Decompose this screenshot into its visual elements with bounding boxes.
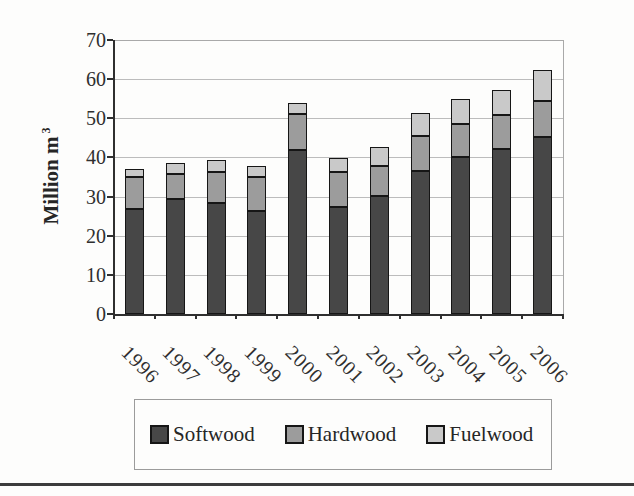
legend-label: Fuelwood — [449, 422, 533, 447]
x-axis-tick-label: 2004 — [444, 341, 491, 388]
bar-segment-fuelwood-1998 — [207, 160, 226, 172]
figure: Million m3 SoftwoodHardwoodFuelwood 0102… — [0, 0, 634, 496]
plot-border-top — [114, 40, 564, 41]
x-axis-line — [113, 314, 564, 316]
bar-segment-fuelwood-1999 — [247, 166, 266, 176]
y-axis-tick — [107, 274, 113, 276]
x-axis-tick — [399, 314, 401, 319]
y-axis-tick-label: 60 — [60, 68, 106, 90]
y-axis-tick — [107, 156, 113, 158]
y-axis-tick-label: 40 — [60, 146, 106, 168]
y-axis-tick-label: 30 — [60, 186, 106, 208]
bar-segment-softwood-1996 — [125, 209, 144, 314]
x-axis-tick — [276, 314, 278, 319]
bar-segment-fuelwood-2002 — [370, 147, 389, 166]
x-axis-tick-label: 1999 — [240, 341, 287, 388]
bar-segment-hardwood-2006 — [533, 101, 552, 137]
bar-segment-hardwood-2003 — [411, 136, 430, 171]
legend-swatch-icon — [426, 425, 445, 444]
y-axis-title-superscript: 3 — [39, 127, 53, 133]
bar-segment-hardwood-2001 — [329, 172, 348, 207]
x-axis-tick-label: 2000 — [280, 341, 327, 388]
bar-segment-hardwood-1998 — [207, 172, 226, 203]
legend-swatch-icon — [150, 425, 169, 444]
y-axis-tick — [107, 78, 113, 80]
y-axis-tick-label: 50 — [60, 107, 106, 129]
bar-segment-hardwood-2004 — [451, 124, 470, 158]
legend-swatch-icon — [285, 425, 304, 444]
bar-segment-softwood-1997 — [166, 199, 185, 314]
x-axis-tick-label: 1996 — [117, 341, 164, 388]
legend-item-hardwood: Hardwood — [285, 422, 397, 447]
legend-item-fuelwood: Fuelwood — [426, 422, 533, 447]
x-axis-tick — [440, 314, 442, 319]
bar-segment-softwood-2006 — [533, 137, 552, 314]
bar-segment-fuelwood-2001 — [329, 158, 348, 172]
bar-segment-softwood-1999 — [247, 211, 266, 314]
x-axis-tick-label: 2001 — [321, 341, 368, 388]
y-axis-tick — [107, 39, 113, 41]
bar-segment-softwood-2002 — [370, 196, 389, 314]
x-axis-tick-label: 2003 — [403, 341, 450, 388]
bar-segment-fuelwood-1997 — [166, 163, 185, 174]
x-axis-tick-label: 2005 — [485, 341, 532, 388]
bar-segment-softwood-2005 — [492, 149, 511, 314]
bar-segment-fuelwood-2003 — [411, 113, 430, 136]
bar-segment-hardwood-1999 — [247, 177, 266, 211]
legend-item-softwood: Softwood — [150, 422, 255, 447]
x-axis-tick — [521, 314, 523, 319]
bar-segment-fuelwood-2004 — [451, 99, 470, 123]
y-axis-tick-label: 0 — [60, 303, 106, 325]
x-axis-tick — [113, 314, 115, 319]
x-axis-tick — [562, 314, 564, 319]
y-axis-tick — [107, 196, 113, 198]
bar-segment-softwood-1998 — [207, 203, 226, 314]
y-axis-line — [113, 40, 115, 316]
bottom-rule-divider — [0, 483, 634, 486]
bar-segment-fuelwood-1996 — [125, 169, 144, 177]
bar-segment-fuelwood-2006 — [533, 70, 552, 102]
gridline — [115, 79, 563, 80]
y-axis-title: Million m3 — [39, 61, 65, 291]
x-axis-tick — [480, 314, 482, 319]
x-axis-tick — [317, 314, 319, 319]
legend-label: Softwood — [173, 422, 255, 447]
legend: SoftwoodHardwoodFuelwood — [134, 399, 552, 470]
bar-segment-hardwood-2000 — [288, 114, 307, 150]
x-axis-tick-label: 2006 — [525, 341, 572, 388]
bar-segment-softwood-2000 — [288, 150, 307, 314]
bar-segment-fuelwood-2000 — [288, 103, 307, 114]
legend-label: Hardwood — [308, 422, 397, 447]
x-axis-tick — [154, 314, 156, 319]
y-axis-tick — [107, 117, 113, 119]
x-axis-tick — [235, 314, 237, 319]
x-axis-tick-label: 2002 — [362, 341, 409, 388]
x-axis-tick — [195, 314, 197, 319]
y-axis-tick — [107, 235, 113, 237]
x-axis-tick-label: 1997 — [158, 341, 205, 388]
y-axis-tick-label: 70 — [60, 29, 106, 51]
x-axis-tick-label: 1998 — [199, 341, 246, 388]
bar-segment-hardwood-1996 — [125, 177, 144, 209]
bar-segment-fuelwood-2005 — [492, 90, 511, 114]
bar-segment-hardwood-2005 — [492, 115, 511, 149]
bar-segment-softwood-2001 — [329, 207, 348, 314]
plot-border-right — [563, 40, 564, 314]
x-axis-tick — [358, 314, 360, 319]
y-axis-tick-label: 20 — [60, 225, 106, 247]
bar-segment-softwood-2004 — [451, 157, 470, 314]
bar-segment-softwood-2003 — [411, 171, 430, 314]
y-axis-tick-label: 10 — [60, 264, 106, 286]
bar-segment-hardwood-2002 — [370, 166, 389, 196]
bar-segment-hardwood-1997 — [166, 174, 185, 198]
